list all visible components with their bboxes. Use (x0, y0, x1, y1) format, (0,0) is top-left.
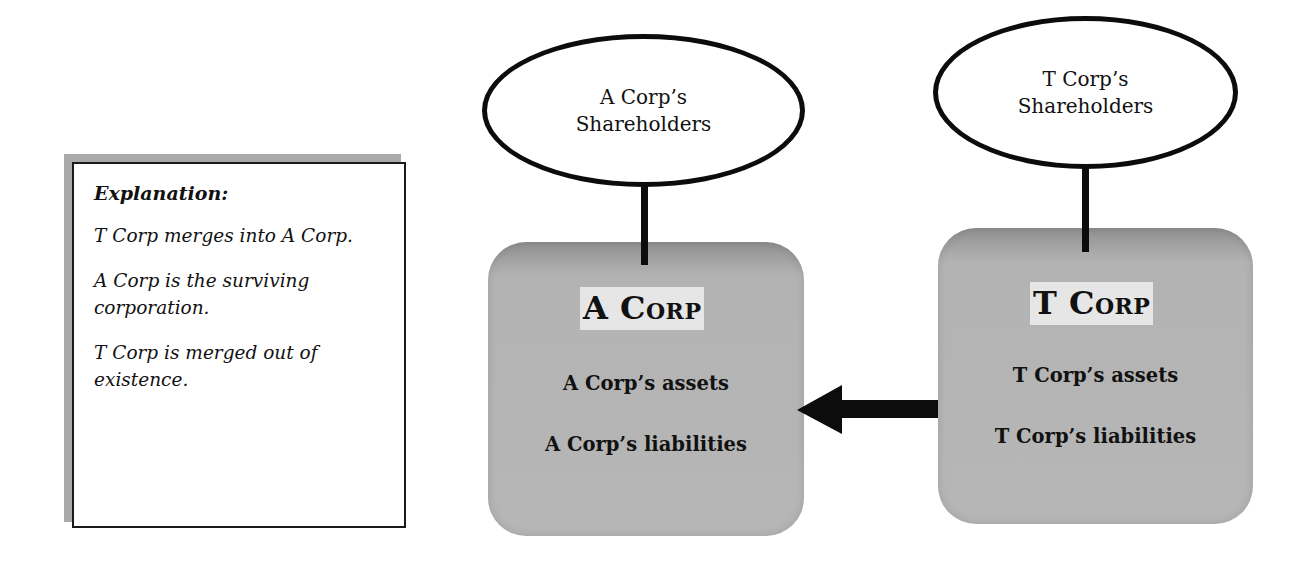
t-corp-title: T Corp (1030, 282, 1153, 325)
a-corp-liabilities: A Corp’s liabilities (488, 433, 804, 457)
t-corp-assets: T Corp’s assets (938, 364, 1253, 388)
arrow-left-icon (796, 384, 940, 436)
t-corp-shareholders-label: T Corp’s Shareholders (1001, 66, 1171, 120)
explanation-text: T Corp is merged out of existence. (94, 339, 384, 393)
explanation-text: T Corp merges into A Corp. (94, 222, 384, 249)
t-corp-liabilities: T Corp’s liabilities (938, 425, 1253, 449)
a-corp-shareholders-node: A Corp’s Shareholders (482, 34, 805, 187)
t-corp-node: T Corp T Corp’s assets T Corp’s liabilit… (938, 228, 1253, 524)
explanation-title: Explanation: (94, 182, 384, 204)
t-corp-shareholders-node: T Corp’s Shareholders (933, 16, 1238, 169)
a-corp-title: A Corp (580, 287, 704, 330)
t-shareholders-connector (1082, 167, 1089, 252)
a-corp-assets: A Corp’s assets (488, 372, 804, 396)
explanation-text: A Corp is the surviving corporation. (94, 267, 384, 321)
a-shareholders-connector (641, 185, 648, 265)
a-corp-shareholders-label: A Corp’s Shareholders (559, 84, 729, 138)
a-corp-node: A Corp A Corp’s assets A Corp’s liabilit… (488, 242, 804, 536)
explanation-panel: Explanation: T Corp merges into A Corp. … (72, 162, 406, 528)
